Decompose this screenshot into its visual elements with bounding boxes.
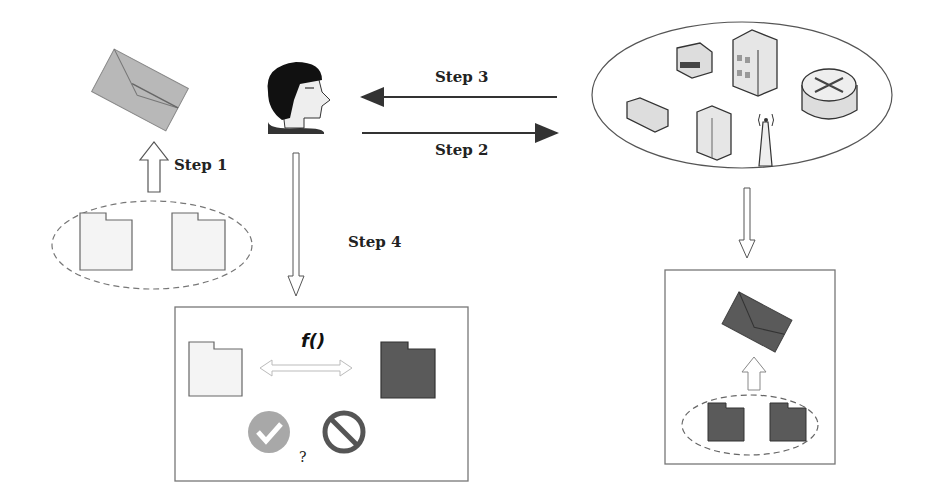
envelope-icon [92,49,189,131]
document-icon [172,213,225,270]
document-icon [189,342,242,396]
hollow-down-arrow-icon [288,153,304,296]
printer-icon [677,43,712,78]
server-tower-icon [697,106,731,160]
hollow-up-arrow-icon [140,142,168,192]
step4-label: Step 4 [348,233,401,251]
building-server-icon [733,30,777,96]
document-icon [381,342,435,398]
check-circle-icon [248,411,290,453]
user-head-icon [268,62,330,134]
wireless-antenna-icon [759,114,774,166]
document-icon [770,403,806,441]
hollow-down-arrow-icon [739,188,755,258]
router-icon [802,69,857,119]
switch-icon [627,98,668,132]
question-mark: ? [299,449,307,465]
document-icon [80,213,132,270]
step3-label: Step 3 [435,68,488,86]
document-icon [708,403,744,441]
function-label: f() [301,330,325,351]
step2-label: Step 2 [435,141,488,159]
step1-label: Step 1 [174,156,227,174]
